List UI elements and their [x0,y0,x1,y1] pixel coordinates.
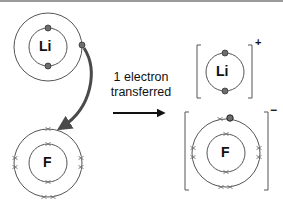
left-bracket [185,112,189,190]
fluoride-ion-symbol: F [221,144,230,160]
lithium-ion-symbol: Li [216,63,228,79]
fluorine-symbol: F [43,154,52,170]
positive-charge: + [255,36,261,48]
transfer-caption: 1 electron transferred [104,70,178,100]
caption-line-1: 1 electron [104,70,178,85]
caption-line-2: transferred [104,85,178,100]
right-bracket [248,45,252,98]
right-bracket [264,112,268,190]
electron-icon [222,50,228,56]
electron-icon [45,25,51,31]
negative-charge: − [270,103,277,117]
ionic-bond-diagram [0,0,283,206]
valence-electron-icon [79,42,85,48]
transferred-electron-icon [227,115,233,121]
electron-icon [45,63,51,69]
electron-transfer-arrow [62,48,91,127]
lithium-symbol: Li [39,38,51,54]
left-bracket [197,45,201,98]
electron-icon [222,88,228,94]
